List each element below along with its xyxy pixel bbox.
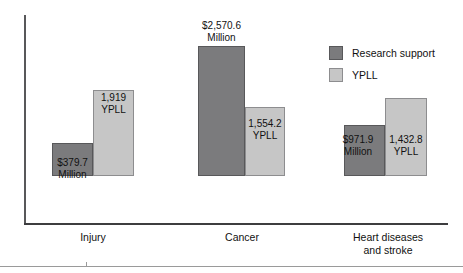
- value-label-cancer-research-support: $2,570.6 Million: [185, 20, 258, 43]
- legend-swatch-ypll: [329, 68, 343, 82]
- value-label-injury-ypll: 1,919 YPLL: [93, 92, 134, 115]
- footer-divider-tick: [86, 262, 87, 267]
- category-label-line1: Heart diseases: [333, 231, 443, 244]
- legend-swatch-research-support: [329, 46, 343, 60]
- value-label-line2: YPLL: [383, 146, 429, 158]
- category-label-line1: Cancer: [207, 231, 277, 244]
- value-label-line1: 1,919: [93, 92, 134, 104]
- grouped-bar-chart: $379.7 Million 1,919 YPLL $2,570.6 Milli…: [0, 0, 463, 273]
- value-label-line2: Million: [329, 146, 387, 158]
- value-label-heart-ypll: 1,432.8 YPLL: [383, 134, 429, 157]
- legend-item-ypll: YPLL: [329, 66, 435, 83]
- bar-cancer-research-support: [198, 46, 245, 176]
- chart-legend: Research support YPLL: [329, 44, 435, 88]
- value-label-cancer-ypll: 1,554.2 YPLL: [242, 118, 288, 141]
- legend-item-research-support: Research support: [329, 44, 435, 61]
- x-axis-label-cancer: Cancer: [207, 231, 277, 244]
- x-axis-line: [24, 223, 448, 225]
- plot-area: $379.7 Million 1,919 YPLL $2,570.6 Milli…: [0, 0, 463, 225]
- legend-label-ypll: YPLL: [352, 69, 378, 81]
- value-label-line1: 1,554.2: [242, 118, 288, 130]
- x-axis-label-heart-diseases-and-stroke: Heart diseases and stroke: [333, 231, 443, 256]
- value-label-line1: $2,570.6: [185, 20, 258, 32]
- value-label-heart-research-support: $971.9 Million: [329, 134, 387, 157]
- x-axis-label-injury: Injury: [58, 231, 128, 244]
- category-label-line1: Injury: [58, 231, 128, 244]
- legend-label-research-support: Research support: [352, 47, 435, 59]
- footer-divider: [0, 266, 463, 267]
- y-axis-line: [24, 15, 26, 224]
- category-label-line2: and stroke: [333, 244, 443, 257]
- value-label-line2: YPLL: [242, 130, 288, 142]
- value-label-line1: $971.9: [329, 134, 387, 146]
- value-label-line2: Million: [185, 32, 258, 44]
- value-label-line1: 1,432.8: [383, 134, 429, 146]
- value-label-line2: YPLL: [93, 104, 134, 116]
